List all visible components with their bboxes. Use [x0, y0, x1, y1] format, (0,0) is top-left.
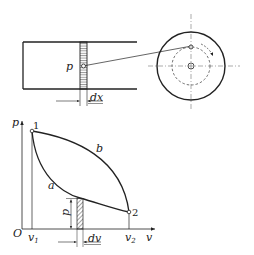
curve-a-label: a — [48, 179, 55, 192]
y-axis-label: p — [12, 116, 19, 129]
point-1-label: 1 — [33, 120, 39, 131]
x-axis-label: v — [146, 231, 153, 244]
pressure-label: p — [66, 60, 73, 73]
origin-label: O — [13, 227, 22, 240]
rotation-arrow — [201, 44, 213, 56]
state-point-2 — [127, 210, 131, 214]
dx-label: dx — [90, 91, 104, 104]
work-strip — [77, 199, 83, 230]
connecting-rod — [86, 47, 190, 66]
pv-diagram: p v O 1 2 b a v1 v2 p dv — [12, 116, 155, 247]
v1-subscript: 1 — [34, 237, 38, 245]
crank-wheel — [148, 14, 240, 110]
strip-width-label: dv — [88, 232, 102, 245]
strip-height-label: p — [59, 209, 72, 216]
point-2-label: 2 — [132, 207, 138, 218]
v2-label: v2 — [125, 231, 136, 245]
v2-subscript: 2 — [130, 237, 136, 245]
cylinder-piston-diagram: dx p — [23, 42, 189, 106]
piston-pin — [82, 64, 86, 68]
v1-label: v1 — [28, 231, 39, 245]
figure-canvas: dx p p v O 1 2 b a v1 v2 — [0, 0, 254, 255]
curve-b-label: b — [96, 142, 103, 155]
